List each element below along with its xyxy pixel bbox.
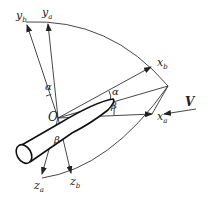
axes-diagram: yb ya xb xa za zb O V α α β β xyxy=(0,0,210,199)
label-zb: zb xyxy=(70,176,80,190)
label-beta-bottom: β xyxy=(54,135,60,145)
top-arc xyxy=(26,22,168,86)
label-origin: O xyxy=(48,111,58,123)
label-xa: xa xyxy=(157,111,167,125)
velocity-arrow xyxy=(164,109,196,114)
label-xb: xb xyxy=(157,57,168,71)
label-alpha-right: α xyxy=(112,87,119,97)
label-za: za xyxy=(34,180,44,194)
label-yb: yb xyxy=(16,10,27,24)
label-velocity: V xyxy=(185,96,194,108)
label-ya: ya xyxy=(42,7,52,21)
body-cylinder xyxy=(20,99,114,162)
diagram-graphics xyxy=(0,0,210,199)
label-beta-right: β xyxy=(111,101,117,111)
label-alpha-top: α xyxy=(45,82,52,92)
